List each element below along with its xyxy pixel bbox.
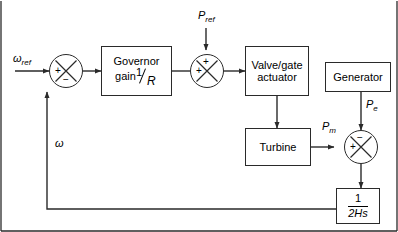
omega-ref-base: ω [13, 52, 22, 64]
p-m-subscript: m [329, 126, 336, 135]
junction3-sign-top: − [357, 133, 363, 143]
junction3-sign-left: + [350, 142, 356, 152]
turbine-block: Turbine [245, 128, 311, 166]
governor-fraction: 1R [136, 67, 158, 87]
p-e-label: Pe [366, 99, 378, 110]
omega-ref-label: ωref [13, 53, 31, 64]
omega-ref-subscript: ref [22, 58, 31, 67]
omega-feedback-label: ω [55, 138, 64, 149]
generator-block: Generator [325, 62, 391, 92]
governor-gain-block: Governor gain1R [101, 46, 172, 96]
junction1-sign-left: + [55, 66, 61, 76]
p-ref-subscript: ref [205, 15, 214, 24]
p-e-subscript: e [373, 104, 377, 113]
inertia-denominator: 2Hs [348, 208, 368, 220]
governor-fraction-denominator: R [147, 75, 156, 88]
junction2-sign-top: + [203, 57, 209, 67]
turbine-label: Turbine [260, 141, 297, 153]
p-m-label: Pm [322, 121, 336, 132]
governor-label-line2: gain1R [115, 67, 158, 87]
inertia-block: 1 2Hs [336, 188, 380, 224]
valve-gate-actuator-block: Valve/gate actuator [245, 46, 309, 96]
valve-label-line2: actuator [257, 71, 297, 83]
omega-feedback-base: ω [55, 137, 64, 149]
valve-label-line1: Valve/gate [251, 59, 302, 71]
generator-label: Generator [333, 71, 383, 83]
junction1-sign-bottom: − [63, 75, 69, 85]
inertia-numerator: 1 [355, 193, 361, 205]
junction2-sign-left: + [196, 66, 202, 76]
inertia-fraction: 1 2Hs [348, 193, 368, 219]
block-diagram: + − + + + − Governor gain1R Valve/gate a… [0, 0, 398, 232]
governor-gain-text: gain [115, 70, 136, 82]
p-ref-label: Pref [198, 10, 215, 21]
